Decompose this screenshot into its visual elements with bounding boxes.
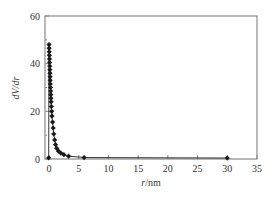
data-point-marker bbox=[51, 131, 56, 136]
x-tick-label: 10 bbox=[103, 163, 113, 174]
data-point-marker bbox=[225, 155, 230, 160]
x-tick-label: 35 bbox=[252, 163, 262, 174]
x-tick-label: 20 bbox=[163, 163, 173, 174]
data-point-marker bbox=[52, 137, 57, 142]
data-point-marker bbox=[46, 155, 51, 160]
x-tick-label: 30 bbox=[222, 163, 232, 174]
data-point-marker bbox=[49, 114, 54, 119]
data-series bbox=[46, 42, 230, 161]
data-point-marker bbox=[66, 154, 71, 159]
data-point-marker bbox=[49, 109, 54, 114]
data-point-marker bbox=[51, 125, 56, 130]
data-point-marker bbox=[49, 99, 54, 104]
data-point-marker bbox=[49, 104, 54, 109]
x-axis-label: r/nm bbox=[141, 177, 161, 188]
chart: 0204060 05101520253035 dV/dr r/nm bbox=[0, 0, 277, 200]
y-tick-label: 40 bbox=[30, 58, 40, 69]
data-point-marker bbox=[50, 119, 55, 124]
y-tick-label: 60 bbox=[30, 11, 40, 22]
y-tick-label: 0 bbox=[35, 154, 40, 165]
x-tick-label: 0 bbox=[47, 163, 52, 174]
y-axis-label: dV/dr bbox=[10, 77, 21, 100]
y-axis-ticks: 0204060 bbox=[30, 11, 49, 165]
x-tick-label: 5 bbox=[76, 163, 81, 174]
plot-frame bbox=[45, 16, 257, 159]
y-tick-label: 20 bbox=[30, 106, 40, 117]
x-tick-label: 15 bbox=[133, 163, 143, 174]
x-tick-label: 25 bbox=[193, 163, 203, 174]
